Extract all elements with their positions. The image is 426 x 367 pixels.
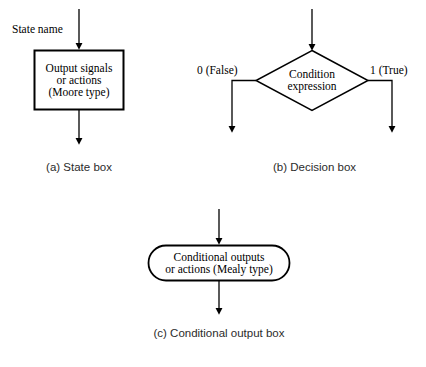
asm-chart-figure: State name Output signals or actions (Mo… — [0, 0, 426, 367]
state-box-text-line-2: or actions — [56, 74, 101, 86]
decision-box-text-line-2: expression — [287, 80, 336, 92]
decision-true-branch-arrow — [368, 81, 392, 131]
state-box-text-line-3: (Moore type) — [49, 86, 110, 98]
conditional-box-text-line-1: Conditional outputs — [173, 251, 264, 263]
state-box-text-line-1: Output signals — [46, 62, 113, 74]
decision-box-text: Condition expression — [262, 63, 362, 97]
decision-box-caption: (b) Decision box — [252, 161, 377, 175]
state-name-label: State name — [12, 23, 63, 37]
decision-false-branch-arrow — [232, 81, 256, 131]
conditional-output-box-caption: (c) Conditional output box — [139, 327, 299, 341]
decision-false-label: 0 (False) — [197, 64, 238, 78]
decision-box-text-line-1: Condition — [289, 68, 335, 80]
state-box-caption: (a) State box — [19, 161, 139, 175]
conditional-output-box-text: Conditional outputs or actions (Mealy ty… — [149, 246, 289, 280]
conditional-box-text-line-2: or actions (Mealy type) — [165, 263, 273, 275]
state-box-text: Output signals or actions (Moore type) — [34, 50, 124, 110]
decision-true-label: 1 (True) — [370, 64, 408, 78]
